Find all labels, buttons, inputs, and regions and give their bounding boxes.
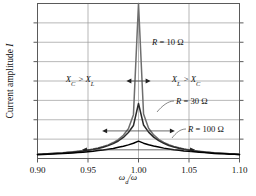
x-tick-label: 0.95 (80, 165, 96, 175)
curve-label-r10: R = 10 Ω (151, 37, 184, 47)
x-tick-label: 1.05 (181, 165, 197, 175)
x-tick-label: 0.90 (30, 165, 46, 175)
curve-label-r30: R = 30 Ω (175, 96, 208, 106)
x-tick-label: 1.10 (232, 165, 248, 175)
y-axis-title: Current amplitude I (5, 43, 15, 119)
resonance-curve-figure: 0.900.951.001.051.10 ωd/ω Current amplit… (0, 0, 256, 196)
curve-label-r100: R = 100 Ω (187, 124, 224, 134)
chart-svg: 0.900.951.001.051.10 ωd/ω Current amplit… (0, 0, 256, 196)
